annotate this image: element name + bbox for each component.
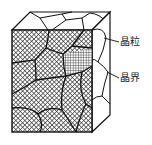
front-face xyxy=(12,30,92,132)
grain-boundary-label: 晶界 xyxy=(120,73,140,83)
grain-label: 晶粒 xyxy=(120,37,140,47)
